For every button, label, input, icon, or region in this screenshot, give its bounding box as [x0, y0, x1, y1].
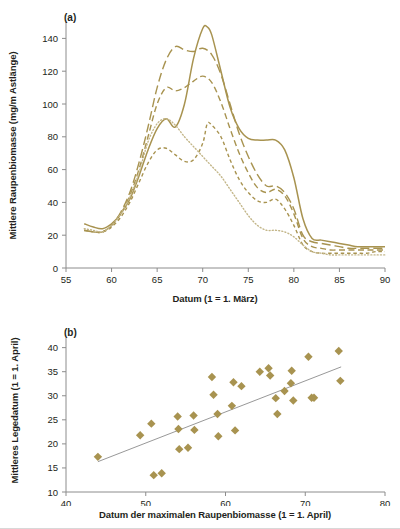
- panel-a-y-tick: 80: [47, 131, 58, 142]
- panel-b-y-tick: 15: [47, 462, 58, 473]
- panel-b-data-point: [304, 353, 312, 361]
- panel-b-data-point: [190, 426, 198, 434]
- panel-a-x-tick: 85: [334, 274, 345, 285]
- panel-a-x-tick: 90: [380, 274, 391, 285]
- panel-b-data-point: [189, 411, 197, 419]
- panel-b-data-point: [175, 445, 183, 453]
- panel-b-x-tick: 70: [300, 498, 311, 506]
- panel-a-series-medium-dash: [84, 76, 385, 250]
- panel-a-x-tick: 75: [243, 274, 254, 285]
- panel-b-data-point: [264, 364, 272, 372]
- figure-container: (a) Mittlere Raupenbiomasse (mg/m Astlän…: [0, 0, 400, 529]
- panel-b-data-point: [173, 412, 181, 420]
- panel-b-x-tick: 60: [220, 498, 231, 506]
- panel-a-tag: (a): [64, 12, 76, 23]
- panel-b-data-point: [289, 396, 297, 404]
- panel-a-x-tick: 55: [61, 274, 72, 285]
- panel-b-data-point: [272, 394, 280, 402]
- panel-a-y-tick: 140: [42, 33, 58, 44]
- panel-b-x-tick: 50: [140, 498, 151, 506]
- panel-b-data-point: [184, 444, 192, 452]
- panel-b-data-point: [94, 453, 102, 461]
- panel-a-x-tick: 60: [106, 274, 117, 285]
- panel-a-y-tick: 40: [47, 197, 58, 208]
- panel-b-data-point: [287, 367, 295, 375]
- panel-b-data-point: [335, 347, 343, 355]
- panel-b-x-tick: 40: [61, 498, 72, 506]
- panel-b-y-tick: 10: [47, 487, 58, 498]
- panel-b-x-axis-title: Datum der maximalen Raupenbiomasse (1 = …: [30, 509, 400, 520]
- panel-a-x-axis-title: Datum (1 = 1. März): [40, 293, 390, 304]
- panel-b-data-point: [150, 471, 158, 479]
- panel-b-y-axis-title: Mittleres Legedatum (1 = 1. April): [9, 321, 20, 501]
- panel-a-plot: 5560657075808590020406080100120140: [0, 0, 400, 300]
- panel-b-data-point: [237, 382, 245, 390]
- panel-a-y-tick: 20: [47, 230, 58, 241]
- panel-b-data-point: [208, 373, 216, 381]
- panel-b-tag: (b): [64, 327, 77, 338]
- panel-b-y-tick: 40: [47, 342, 58, 353]
- panel-a-series-long-dash: [84, 46, 385, 248]
- panel-b-y-tick: 35: [47, 366, 58, 377]
- panel-b-data-point: [273, 410, 281, 418]
- panel-b-plot: 405060708010152025303540: [0, 310, 400, 506]
- panel-a-x-tick: 80: [289, 274, 300, 285]
- panel-a-y-tick: 0: [53, 263, 58, 274]
- panel-b-y-tick: 20: [47, 438, 58, 449]
- panel-a-x-tick: 65: [152, 274, 163, 285]
- panel-b-data-point: [136, 431, 144, 439]
- panel-b-data-point: [266, 371, 274, 379]
- panel-b-data-point: [147, 419, 155, 427]
- panel-a-y-axis-title: Mittlere Raupenbiomasse (mg/m Astlänge): [7, 16, 18, 276]
- panel-b-data-point: [336, 377, 344, 385]
- panel-a-series-solid: [84, 25, 385, 246]
- panel-b-data-point: [231, 426, 239, 434]
- panel-b-data-point: [158, 469, 166, 477]
- panel-b-data-point: [287, 379, 295, 387]
- panel-b-y-tick: 25: [47, 414, 58, 425]
- panel-b-data-point: [229, 378, 237, 386]
- panel-b-data-point: [209, 391, 217, 399]
- panel-a: (a) Mittlere Raupenbiomasse (mg/m Astlän…: [0, 0, 400, 310]
- panel-b: (b) Mittleres Legedatum (1 = 1. April) D…: [0, 310, 400, 529]
- panel-a-series-dotted: [84, 119, 385, 255]
- panel-a-y-tick: 100: [42, 99, 58, 110]
- panel-a-x-tick: 70: [197, 274, 208, 285]
- panel-b-y-tick: 30: [47, 390, 58, 401]
- panel-b-data-point: [214, 432, 222, 440]
- panel-b-x-tick: 80: [380, 498, 391, 506]
- panel-b-data-point: [213, 410, 221, 418]
- panel-b-data-point: [256, 367, 264, 375]
- panel-a-y-tick: 120: [42, 66, 58, 77]
- panel-a-y-tick: 60: [47, 164, 58, 175]
